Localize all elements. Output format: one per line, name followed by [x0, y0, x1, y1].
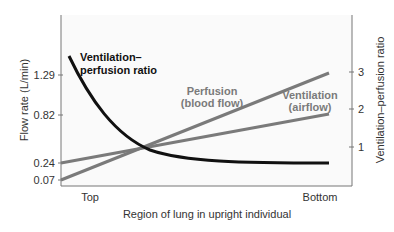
y2tick-label: 1 — [358, 141, 364, 153]
x-axis-title: Region of lung in upright individual — [123, 208, 291, 220]
ytick-label: 0.82 — [34, 109, 55, 121]
ventilation-label-line1: Ventilation — [282, 89, 338, 101]
x-label-bottom: Bottom — [303, 191, 338, 203]
left-ticks: 1.29 0.82 0.24 0.07 — [34, 69, 63, 186]
vq-label-line1: Ventilation– — [80, 51, 142, 63]
y-axis-title: Flow rate (L/min) — [18, 59, 30, 142]
y2-axis-title: Ventilation–perfusion ratio — [374, 37, 386, 164]
y2tick-label: 2 — [358, 103, 364, 115]
ytick-label: 0.24 — [34, 157, 55, 169]
x-label-top: Top — [81, 191, 99, 203]
ventilation-label-line2: (airflow) — [289, 101, 332, 113]
ventilation-perfusion-chart: 1.29 0.82 0.24 0.07 3 2 1 Flow rate (L/m… — [0, 0, 394, 232]
ytick-label: 1.29 — [34, 69, 55, 81]
perfusion-label-line1: Perfusion — [187, 85, 238, 97]
ytick-label: 0.07 — [34, 174, 55, 186]
perfusion-label-line2: (blood flow) — [181, 97, 244, 109]
vq-label-line2: perfusion ratio — [80, 64, 157, 76]
chart-svg: 1.29 0.82 0.24 0.07 3 2 1 Flow rate (L/m… — [0, 0, 394, 232]
y2tick-label: 3 — [358, 66, 364, 78]
